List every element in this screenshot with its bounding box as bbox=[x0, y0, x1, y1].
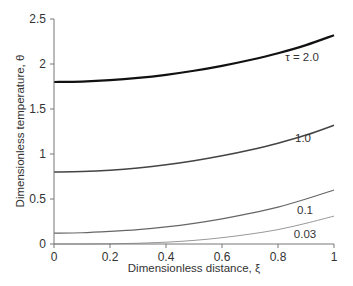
curve-labels: τ = 2.01.00.10.03 bbox=[285, 51, 319, 240]
y-tick-label: 1 bbox=[39, 147, 46, 161]
y-tick-label: 2.5 bbox=[29, 12, 46, 26]
x-tick-label: 0.2 bbox=[102, 250, 119, 264]
x-tick-label: 0.8 bbox=[270, 250, 287, 264]
y-tick-label: 1.5 bbox=[29, 102, 46, 116]
curve-label: 0.1 bbox=[297, 204, 313, 216]
x-tick-label: 1 bbox=[331, 250, 338, 264]
plot-area bbox=[54, 35, 334, 244]
curve-label: 0.03 bbox=[294, 228, 316, 240]
y-tick-label: 0 bbox=[39, 237, 46, 251]
x-axis-ticks: 00.20.40.60.81 bbox=[51, 244, 338, 264]
series-line bbox=[54, 125, 334, 172]
series-line bbox=[54, 216, 334, 244]
y-axis-title: Dimensionless temperature, θ bbox=[14, 55, 26, 208]
x-axis-title: Dimensionless distance, ξ bbox=[128, 262, 260, 274]
x-tick-label: 0 bbox=[51, 250, 58, 264]
y-tick-label: 0.5 bbox=[29, 192, 46, 206]
curve-label: τ = 2.0 bbox=[285, 51, 319, 63]
y-tick-label: 2 bbox=[39, 57, 46, 71]
y-axis-ticks: 00.511.522.5 bbox=[29, 12, 54, 251]
line-chart: 00.511.522.5 00.20.40.60.81 τ = 2.01.00.… bbox=[0, 0, 353, 286]
curve-label: 1.0 bbox=[295, 132, 311, 144]
